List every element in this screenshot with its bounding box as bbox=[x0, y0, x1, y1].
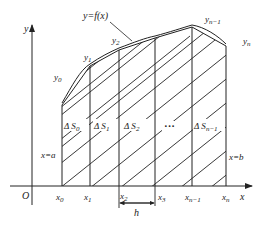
trapezoid-diagram: y=f(x) y x O x=a x=b h ··· x0 x1 x2 x3 x… bbox=[0, 0, 266, 228]
y-value-0: y0 bbox=[53, 72, 62, 84]
y-value-1: y1 bbox=[83, 52, 92, 64]
x-tick-2: x2 bbox=[119, 191, 128, 203]
y-value-n: yn bbox=[242, 36, 251, 48]
y-value-labels: y0 y1 y2 yn−1 yn bbox=[53, 14, 251, 84]
area-labels: Δ S0 Δ S1 Δ S2 Δ Sn−1 bbox=[63, 119, 225, 133]
y-axis-label: y bbox=[23, 23, 29, 34]
x-tick-labels: x0 x1 x2 x3 xn−1 xn bbox=[55, 191, 230, 204]
x-tick-n: xn bbox=[221, 192, 230, 204]
right-boundary-label: x=b bbox=[228, 152, 244, 162]
origin-label: O bbox=[22, 190, 29, 201]
x-tick-n-1: xn−1 bbox=[184, 192, 201, 204]
x-tick-3: x3 bbox=[157, 192, 166, 204]
y-value-n-1: yn−1 bbox=[204, 14, 221, 26]
step-label: h bbox=[134, 207, 139, 218]
y-value-2: y2 bbox=[111, 35, 120, 47]
ellipsis-dots: ··· bbox=[164, 120, 175, 132]
x-axis-label: x bbox=[239, 191, 245, 202]
left-boundary-label: x=a bbox=[40, 150, 56, 160]
x-tick-0: x0 bbox=[55, 192, 64, 204]
curve-fx bbox=[62, 25, 226, 103]
curve-label: y=f(x) bbox=[82, 10, 109, 22]
x-tick-1: x1 bbox=[83, 192, 92, 204]
